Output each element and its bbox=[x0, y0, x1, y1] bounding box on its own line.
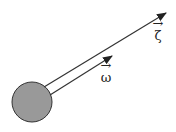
diagram-canvas: → ζ → ω bbox=[0, 0, 176, 132]
rotating-body-circle bbox=[12, 82, 52, 122]
omega-label: → ω bbox=[101, 58, 112, 85]
zeta-symbol: ζ bbox=[154, 28, 161, 43]
omega-symbol: ω bbox=[101, 70, 112, 85]
zeta-label: → ζ bbox=[153, 16, 164, 43]
